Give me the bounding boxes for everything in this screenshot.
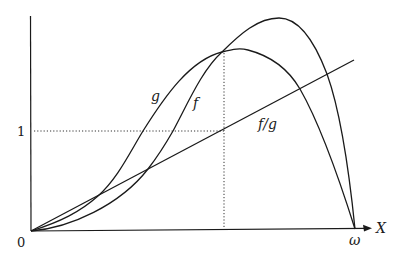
label-omega: ω <box>349 232 361 248</box>
label-g: g <box>151 88 160 104</box>
label-f: f <box>192 95 201 111</box>
label-x-axis: X <box>375 220 387 236</box>
diagram-canvas: g f f/g 1 0 ω X <box>0 0 401 256</box>
curve-f <box>31 18 355 231</box>
curve-g <box>31 49 355 231</box>
label-origin: 0 <box>17 235 25 250</box>
x-axis <box>31 228 366 231</box>
label-f-over-g: f/g <box>257 116 277 132</box>
label-one: 1 <box>17 124 25 139</box>
curve-f-over-g <box>31 60 354 231</box>
x-axis-arrow-icon <box>363 225 372 232</box>
y-axis <box>31 16 32 231</box>
